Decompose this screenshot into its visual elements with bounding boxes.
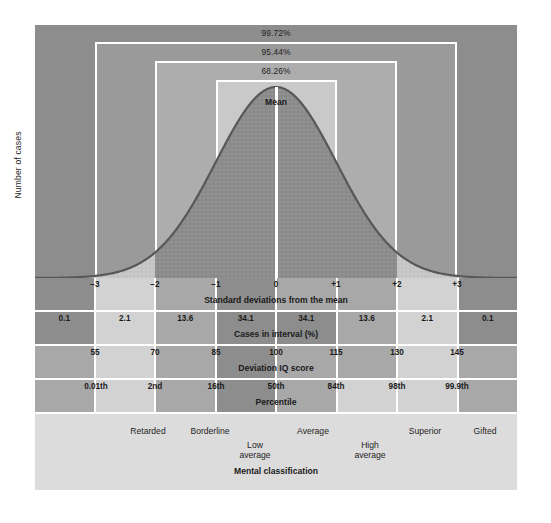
cases-value: 34.1 xyxy=(217,314,276,323)
cases-cell: 0.1 xyxy=(35,312,96,344)
row-cases-in-interval: 0.1 2.1 13.6 34.1 34.1 13.6 2.1 0.1 Case… xyxy=(35,312,517,344)
iq-tick: 55 xyxy=(80,348,110,357)
cases-value: 0.1 xyxy=(459,314,518,323)
row-mental-classification: RetardedBorderlineLowaverageAverageHigha… xyxy=(35,414,517,490)
classification-caption: Mental classification xyxy=(35,466,517,476)
iq-tick: 130 xyxy=(382,348,412,357)
percentile-tick: 2nd xyxy=(140,382,170,391)
iq-caption: Deviation IQ score xyxy=(35,363,517,373)
classification-item: Lowaverage xyxy=(220,440,290,460)
row-standard-deviations: −3 −2 −1 0 +1 +2 +3 Standard deviations … xyxy=(35,278,517,310)
sd-tick: +1 xyxy=(321,280,351,289)
classification-item: Borderline xyxy=(175,426,245,436)
normal-curve-plot-area: 99.72% 95.44% 68.26% xyxy=(35,25,517,278)
cases-cell: 0.1 xyxy=(459,312,518,344)
cases-cells: 0.1 2.1 13.6 34.1 34.1 13.6 2.1 0.1 xyxy=(35,312,517,344)
sd-tick: 0 xyxy=(261,280,291,289)
cases-cell: 34.1 xyxy=(217,312,278,344)
y-axis-label: Number of cases xyxy=(13,105,23,225)
cases-cell: 13.6 xyxy=(156,312,217,344)
sd-caption: Standard deviations from the mean xyxy=(35,295,517,305)
cases-cell: 2.1 xyxy=(398,312,459,344)
iq-distribution-figure: Number of cases 99.72% 95.44% 68.26% xyxy=(0,0,551,523)
mean-label: Mean xyxy=(235,97,317,107)
cases-value: 0.1 xyxy=(35,314,94,323)
percentile-tick: 98th xyxy=(382,382,412,391)
percentile-tick: 0.01th xyxy=(75,382,117,391)
percentile-tick: 16th xyxy=(201,382,231,391)
percentile-tick: 84th xyxy=(321,382,351,391)
cases-cell: 13.6 xyxy=(338,312,399,344)
sd-tick: +3 xyxy=(442,280,472,289)
cases-caption: Cases in interval (%) xyxy=(35,329,517,339)
sd-tick: +2 xyxy=(382,280,412,289)
iq-tick: 145 xyxy=(442,348,472,357)
cases-value: 13.6 xyxy=(338,314,397,323)
sd-tick: −2 xyxy=(140,280,170,289)
row-deviation-iq: 55 70 85 100 115 130 145 Deviation IQ sc… xyxy=(35,346,517,378)
cases-value: 13.6 xyxy=(156,314,215,323)
cases-value: 34.1 xyxy=(277,314,336,323)
cases-value: 2.1 xyxy=(398,314,457,323)
cases-cell: 2.1 xyxy=(96,312,157,344)
iq-tick: 100 xyxy=(261,348,291,357)
classification-item: Retarded xyxy=(113,426,183,436)
percentile-caption: Percentile xyxy=(35,397,517,407)
cases-cell: 34.1 xyxy=(277,312,338,344)
row-percentile: 0.01th 2nd 16th 50th 84th 98th 99.9th Pe… xyxy=(35,380,517,412)
classification-item: Highaverage xyxy=(335,440,405,460)
classification-item: Gifted xyxy=(450,426,520,436)
percentile-tick: 99.9th xyxy=(437,382,477,391)
cases-value: 2.1 xyxy=(96,314,155,323)
classification-item: Average xyxy=(278,426,348,436)
iq-tick: 70 xyxy=(140,348,170,357)
mean-line xyxy=(275,87,278,278)
sd-tick: −3 xyxy=(80,280,110,289)
iq-tick: 115 xyxy=(321,348,351,357)
iq-tick: 85 xyxy=(201,348,231,357)
sd-tick: −1 xyxy=(201,280,231,289)
percentile-tick: 50th xyxy=(261,382,291,391)
